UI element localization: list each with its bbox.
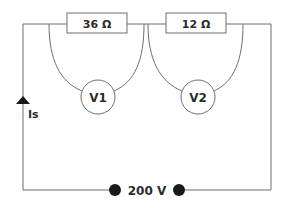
voltmeter-v1-label: V1 <box>89 91 107 105</box>
voltmeter-v2-label: V2 <box>189 91 207 105</box>
v1-lead-right <box>114 24 144 91</box>
circuit-diagram: 36 Ω 12 Ω V1 V2 Is 200 V <box>0 0 286 208</box>
voltmeter-v2: V2 <box>181 80 215 114</box>
power-supply: 200 V <box>109 184 185 198</box>
resistor-r2-label: 12 Ω <box>182 18 211 31</box>
current-arrow-up-icon <box>16 96 30 104</box>
resistor-r2: 12 Ω <box>166 13 226 33</box>
circuit-wires <box>23 24 271 190</box>
supply-voltage-label: 200 V <box>128 184 167 198</box>
v2-lead-left <box>148 24 182 91</box>
current-indicator: Is <box>16 96 39 121</box>
supply-terminal-left <box>109 184 121 196</box>
current-label: Is <box>28 108 39 121</box>
resistor-r1: 36 Ω <box>67 13 127 33</box>
v2-lead-right <box>214 24 243 91</box>
supply-terminal-right <box>173 184 185 196</box>
voltmeter-v1: V1 <box>81 80 115 114</box>
v1-lead-left <box>49 24 82 91</box>
resistor-r1-label: 36 Ω <box>83 18 112 31</box>
voltmeter-leads <box>49 24 243 91</box>
